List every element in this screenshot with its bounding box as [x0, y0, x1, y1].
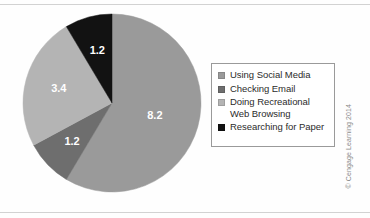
top-divider-rule — [0, 4, 370, 5]
pie-data-label: 8.2 — [147, 109, 162, 121]
legend-item-doing-recreational-web-browsing: Doing Recreational Web Browsing — [218, 96, 330, 119]
legend-swatch-icon-checking-email — [218, 86, 225, 93]
legend-swatch-icon-researching-for-paper — [218, 124, 225, 131]
bottom-divider-rule — [0, 212, 370, 213]
pie-chart-svg: 8.21.23.41.2 — [22, 13, 202, 193]
pie-chart: 8.21.23.41.2 — [22, 13, 202, 193]
legend-swatch-icon-using-social-media — [218, 72, 225, 79]
chart-legend: Using Social Media Checking Email Doing … — [211, 63, 335, 147]
pie-slice-group — [23, 14, 201, 192]
legend-item-checking-email: Checking Email — [218, 83, 330, 95]
pie-data-label: 1.2 — [64, 135, 79, 147]
legend-item-researching-for-paper: Researching for Paper — [218, 121, 330, 133]
legend-label-researching-for-paper: Researching for Paper — [230, 121, 324, 133]
legend-label-checking-email: Checking Email — [230, 83, 295, 95]
legend-swatch-icon-doing-recreational-web-browsing — [218, 99, 225, 106]
legend-label-doing-recreational-web-browsing: Doing Recreational Web Browsing — [230, 96, 310, 119]
legend-label-using-social-media: Using Social Media — [230, 69, 310, 81]
legend-item-using-social-media: Using Social Media — [218, 69, 330, 81]
figure-container: 8.21.23.41.2 Using Social Media Checking… — [0, 0, 370, 218]
pie-data-label: 1.2 — [90, 44, 105, 56]
pie-data-label: 3.4 — [51, 82, 67, 94]
copyright-credit: © Cengage Learning 2014 — [345, 104, 352, 189]
